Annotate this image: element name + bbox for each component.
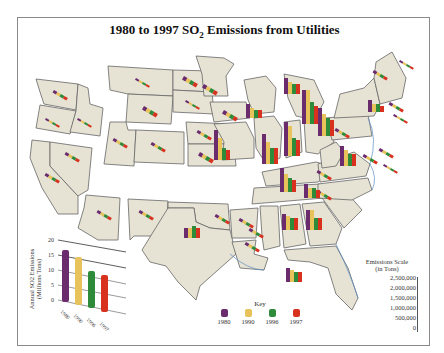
svg-text:1997: 1997: [98, 320, 110, 332]
state-oregon: [36, 105, 76, 134]
svg-text:0: 0: [51, 297, 54, 303]
legend-item-1980: 1980: [212, 309, 236, 325]
figure-frame: 1980 to 1997 SO2 Emissions from Utilitie…: [17, 17, 430, 346]
scale-title: Emissions Scale(in Tons): [352, 258, 422, 272]
svg-text:1980: 1980: [59, 308, 71, 320]
legend-item-1990: 1990: [236, 309, 260, 325]
svg-text:15: 15: [48, 252, 54, 258]
legend-swatch-icon: [269, 309, 276, 317]
inset-bar-1996: [88, 271, 95, 308]
state-wyoming: [126, 94, 173, 124]
emissions-scale: Emissions Scale(in Tons) 2,500,000 2,000…: [352, 258, 422, 334]
legend-title: Key: [210, 300, 310, 308]
state-iowa: [210, 102, 250, 122]
state-new-england: [374, 52, 406, 104]
inset-bar-1990: [75, 257, 82, 305]
legend-swatch-icon: [293, 309, 300, 317]
legend-item-1996: 1996: [260, 309, 284, 325]
state-arizona: [78, 195, 120, 240]
state-mississippi: [260, 206, 280, 250]
svg-text:10: 10: [48, 267, 54, 273]
national-totals-inset: Annual SO2 Emissions(Millions Tons) 20 1…: [20, 236, 140, 336]
svg-text:20: 20: [48, 237, 54, 243]
legend-swatch-icon: [221, 309, 228, 317]
legend-item-1997: 1997: [284, 309, 308, 325]
legend-swatch-icon: [245, 309, 252, 317]
legend: Key 1980 1990 1996 1997: [210, 300, 310, 325]
inset-bar-1980: [62, 250, 69, 302]
svg-text:1996: 1996: [85, 316, 97, 328]
inset-bar-1997: [101, 275, 108, 312]
svg-text:5: 5: [51, 282, 54, 288]
scale-axis: [417, 277, 418, 332]
inset-y-axis-label: Annual SO2 Emissions(Millions Tons): [28, 244, 42, 314]
svg-text:1990: 1990: [72, 312, 84, 324]
